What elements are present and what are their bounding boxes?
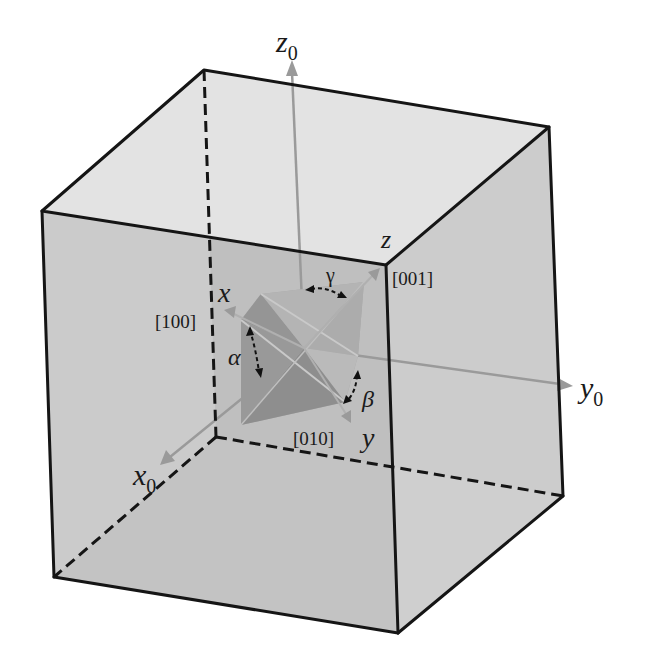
miller-001-label: [001] — [392, 268, 433, 289]
crystal-x-label: x — [217, 277, 231, 308]
crystal-orientation-diagram: z0 y0 x0 x [100] z [001] y [010] α β γ — [0, 0, 651, 668]
miller-010-label: [010] — [293, 428, 334, 449]
gamma-label: γ — [325, 264, 335, 287]
crystal-y-label: y — [359, 422, 375, 453]
alpha-label: α — [228, 344, 241, 370]
cube-face-front — [42, 211, 398, 633]
y0-label: y0 — [577, 371, 603, 410]
z0-label: z0 — [275, 25, 298, 64]
miller-100-label: [100] — [155, 311, 196, 332]
crystal-z-label: z — [380, 225, 391, 254]
beta-label: β — [361, 386, 374, 412]
